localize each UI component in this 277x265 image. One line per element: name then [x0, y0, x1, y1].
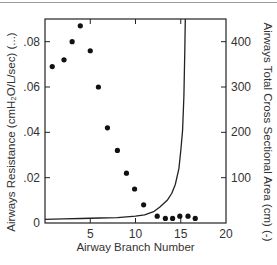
x-tick-label: 5: [87, 227, 94, 241]
plot-axes: 51015200.02.04.06.08100200300400: [23, 19, 251, 241]
data-point: [124, 171, 129, 176]
data-point: [115, 148, 120, 153]
cross-section-area-curve: [45, 19, 185, 219]
y-right-tick-label: 100: [231, 171, 251, 185]
data-point: [78, 23, 83, 28]
y-left-tick-label: .08: [23, 35, 40, 49]
data-point: [105, 125, 110, 130]
x-tick-label: 10: [129, 227, 143, 241]
y-left-tick-label: .02: [23, 171, 40, 185]
data-point: [193, 216, 198, 221]
x-tick-label: 20: [219, 227, 233, 241]
data-point: [50, 64, 55, 69]
data-point: [96, 84, 101, 89]
data-point: [141, 202, 146, 207]
chart-plot: 51015200.02.04.06.08100200300400: [0, 0, 277, 265]
y-left-tick-label: .06: [23, 80, 40, 94]
x-axis-label: Airway Branch Number: [45, 241, 226, 253]
data-point: [61, 57, 66, 62]
data-point: [70, 39, 75, 44]
data-point: [132, 186, 137, 191]
y-right-tick-label: 200: [231, 125, 251, 139]
data-point: [88, 48, 93, 53]
y-axis-right-label: Airways Total Cross Sectional Area (cm) …: [262, 23, 274, 242]
x-tick-label: 15: [174, 227, 188, 241]
data-point: [185, 214, 190, 219]
data-point: [170, 216, 175, 221]
y-right-tick-label: 300: [231, 80, 251, 94]
plot-frame: [45, 19, 226, 223]
data-point: [155, 214, 160, 219]
y-left-tick-label: .04: [23, 125, 40, 139]
y-right-tick-label: 400: [231, 35, 251, 49]
data-point: [177, 214, 182, 219]
y-left-tick-label: 0: [33, 216, 40, 230]
y-axis-left-label: Airways Resistance (cmH₂O/L/sec) (...): [5, 32, 17, 231]
resistance-dots: [50, 23, 198, 221]
data-point: [163, 216, 168, 221]
